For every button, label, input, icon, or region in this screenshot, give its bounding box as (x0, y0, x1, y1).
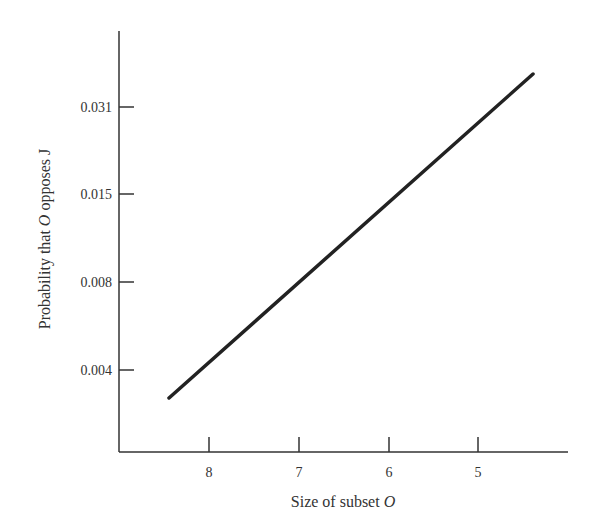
x-tick-label: 6 (386, 465, 393, 480)
x-axis-label: Size of subset O (291, 493, 396, 510)
x-tick-label: 5 (475, 465, 482, 480)
y-tick-label: 0.015 (81, 187, 113, 202)
x-tick-label: 8 (206, 465, 213, 480)
x-tick-label: 7 (296, 465, 303, 480)
y-axis-label: Probability that O opposes J (36, 149, 54, 329)
y-tick-label: 0.031 (81, 100, 113, 115)
y-tick-label: 0.008 (81, 275, 113, 290)
chart: 0.0310.0150.0080.004 8765 Size of subset… (0, 0, 593, 528)
y-tick-label: 0.004 (81, 363, 113, 378)
data-line (169, 74, 533, 398)
